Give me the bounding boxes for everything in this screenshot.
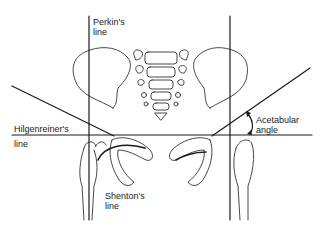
shentons-arc-left — [98, 145, 145, 160]
hilgenreiners-line-label-2: line — [14, 139, 28, 149]
acetabular-angle-label-2: angle — [256, 125, 278, 135]
perkins-line-label-2: line — [93, 27, 107, 37]
right-ilium-outline — [194, 48, 248, 108]
diagram-graphics — [0, 0, 321, 227]
angle-arrowheads — [246, 111, 252, 135]
right-pubis-outline — [169, 138, 212, 186]
pelvis-diagram: Perkin's line Hilgenreiner's line Acetab… — [0, 0, 321, 227]
shentons-arc-right — [176, 152, 206, 160]
hilgenreiners-line-label-1: Hilgenreiner's — [14, 124, 69, 134]
left-ilium-outline — [73, 48, 130, 108]
shentons-line-label-2: line — [105, 201, 119, 211]
sacrum — [134, 50, 189, 120]
acetabular-angle-label-1: Acetabular — [256, 115, 299, 125]
right-femur-outline — [234, 140, 254, 220]
shentons-line-label-1: Shenton's — [105, 191, 145, 201]
perkins-line-label-1: Perkin's — [93, 17, 125, 27]
